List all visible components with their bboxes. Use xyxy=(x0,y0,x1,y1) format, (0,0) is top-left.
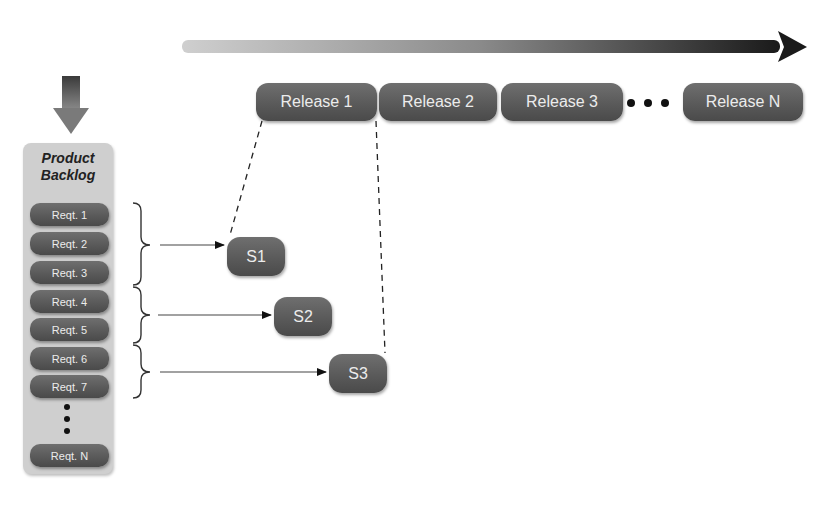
requirement-2: Reqt. 2 xyxy=(30,232,109,255)
timeline-arrow-icon xyxy=(182,31,807,62)
backlog-ellipsis-icon xyxy=(64,404,72,440)
sprint-s2: S2 xyxy=(274,297,332,336)
release-1: Release 1 xyxy=(256,83,377,121)
requirement-1: Reqt. 1 xyxy=(30,203,109,226)
sprint-s1: S1 xyxy=(227,237,285,276)
backlog-title-line1: Product xyxy=(23,150,113,167)
requirement-6: Reqt. 6 xyxy=(30,347,109,370)
release-3: Release 3 xyxy=(501,83,623,121)
diagram-lines xyxy=(0,0,830,506)
requirement-4: Reqt. 4 xyxy=(30,290,109,313)
requirement-7: Reqt. 7 xyxy=(30,375,109,398)
release-n: Release N xyxy=(683,83,803,121)
release-ellipsis-icon xyxy=(627,99,669,107)
requirement-5: Reqt. 5 xyxy=(30,318,109,341)
requirement-3: Reqt. 3 xyxy=(30,261,109,284)
backlog-title-line2: Backlog xyxy=(23,167,113,184)
release-2: Release 2 xyxy=(379,83,497,121)
down-arrow-icon xyxy=(53,76,89,134)
requirement-braces xyxy=(133,203,150,398)
sprint-s3: S3 xyxy=(329,354,387,393)
release-scope-line-left xyxy=(230,121,262,235)
backlog-title: Product Backlog xyxy=(23,150,113,184)
release-scope-line-right xyxy=(376,121,385,353)
requirement-n: Reqt. N xyxy=(30,444,109,467)
